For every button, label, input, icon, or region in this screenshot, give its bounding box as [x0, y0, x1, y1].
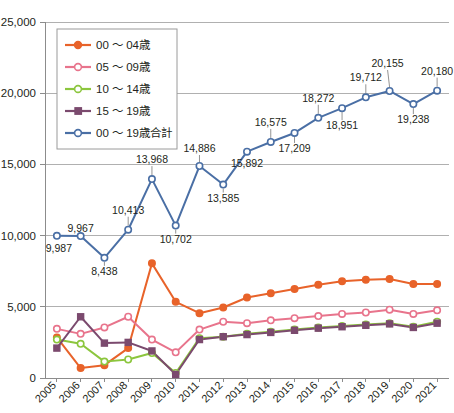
data-point	[434, 87, 440, 93]
data-point	[54, 336, 60, 342]
data-point	[196, 326, 202, 332]
y-axis-label: 20,000	[1, 87, 36, 99]
data-point	[173, 349, 179, 355]
chart-container: 05,00010,00015,00020,00025,000 200520062…	[0, 0, 454, 413]
x-axis-label: 2020	[389, 379, 415, 405]
data-point	[339, 105, 345, 111]
data-point	[54, 345, 60, 351]
data-value-label: 18,951	[326, 119, 358, 131]
x-axis-label: 2006	[56, 379, 82, 405]
data-point	[339, 311, 345, 317]
data-point	[386, 306, 392, 312]
x-axis-label: 2017	[318, 379, 344, 405]
chart-legend: 00 ～ 04歳05 ～ 09歳10 ～ 14歳15 ～ 19歳00 ～ 19歳…	[57, 29, 177, 149]
data-point	[149, 176, 155, 182]
data-point	[268, 290, 274, 296]
x-axis-label: 2011	[176, 379, 201, 404]
data-value-label: 9,987	[46, 242, 72, 254]
data-point	[315, 115, 321, 121]
data-point	[101, 324, 107, 330]
data-point	[125, 339, 131, 345]
data-value-label: 13,585	[207, 192, 239, 204]
data-point	[268, 317, 274, 323]
data-value-label: 10,413	[112, 204, 144, 216]
data-point	[125, 356, 131, 362]
line-chart: 05,00010,00015,00020,00025,000 200520062…	[0, 0, 454, 413]
data-point	[244, 148, 250, 154]
data-value-label: 10,702	[160, 233, 192, 245]
data-point	[434, 320, 440, 326]
data-point	[434, 307, 440, 313]
data-point	[410, 324, 416, 330]
y-axis-label: 10,000	[1, 230, 36, 242]
data-point	[101, 340, 107, 346]
x-axis-label: 2015	[270, 379, 296, 405]
data-point	[292, 327, 298, 333]
legend-label-2: 10 ～ 14歳	[96, 83, 151, 95]
data-point	[363, 322, 369, 328]
y-axis-label: 5,000	[7, 301, 36, 313]
data-point	[386, 88, 392, 94]
series-line-0	[57, 263, 437, 368]
data-point	[54, 233, 60, 239]
legend-label-4: 00 ～ 19歳合計	[96, 126, 172, 139]
data-point	[434, 281, 440, 287]
data-point	[220, 181, 226, 187]
data-point	[244, 332, 250, 338]
y-axis-label: 0	[30, 372, 36, 384]
data-value-label: 15,892	[231, 157, 263, 169]
data-value-label: 8,438	[91, 265, 117, 277]
legend-label-0: 00 ～ 04歳	[96, 39, 151, 51]
x-axis-label: 2021	[413, 379, 439, 405]
x-axis-label: 2014	[246, 379, 272, 405]
x-axis-label: 2010	[151, 379, 177, 405]
data-point	[268, 139, 274, 145]
legend-swatch-marker-3	[75, 108, 81, 114]
x-axis-tick-labels: 2005200620072008200920102011201220132014…	[32, 378, 438, 405]
data-point	[196, 337, 202, 343]
data-point	[339, 278, 345, 284]
data-point	[125, 227, 131, 233]
data-point	[315, 313, 321, 319]
label-leader-line	[388, 70, 390, 87]
x-axis-label: 2012	[199, 379, 225, 405]
data-point	[101, 255, 107, 261]
data-point	[101, 358, 107, 364]
x-axis-label: 2007	[80, 379, 106, 405]
data-value-label: 20,155	[372, 57, 404, 69]
data-point	[149, 260, 155, 266]
data-point	[315, 325, 321, 331]
data-value-label: 18,272	[302, 92, 334, 104]
x-axis-label: 2005	[32, 379, 58, 405]
data-point	[78, 314, 84, 320]
data-point	[410, 281, 416, 287]
data-value-label: 20,180	[421, 65, 453, 77]
x-axis-label: 2016	[294, 379, 320, 405]
data-point	[291, 315, 297, 321]
data-point	[244, 320, 250, 326]
data-point	[196, 163, 202, 169]
data-point	[315, 282, 321, 288]
data-value-label: 16,575	[255, 116, 287, 128]
x-axis-label: 2019	[365, 379, 391, 405]
x-axis-label: 2013	[223, 379, 249, 405]
data-point	[125, 314, 131, 320]
data-value-label: 14,886	[183, 142, 215, 154]
data-point	[196, 310, 202, 316]
data-value-label: 13,968	[136, 153, 168, 165]
data-point	[410, 311, 416, 317]
data-point	[173, 371, 179, 377]
data-point	[363, 277, 369, 283]
data-point	[220, 334, 226, 340]
data-point	[339, 324, 345, 330]
data-point	[220, 304, 226, 310]
y-axis-label: 15,000	[1, 158, 36, 170]
data-point	[386, 276, 392, 282]
data-value-label: 17,209	[278, 142, 310, 154]
data-point	[268, 329, 274, 335]
data-point	[291, 130, 297, 136]
legend-label-3: 15 ～ 19歳	[96, 105, 151, 117]
data-value-label: 9,967	[68, 222, 94, 234]
data-point	[77, 365, 83, 371]
data-point	[77, 331, 83, 337]
